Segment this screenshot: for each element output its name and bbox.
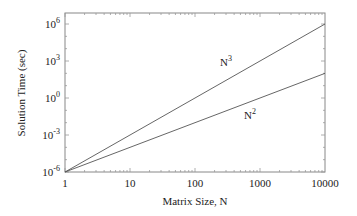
x-axis-title: Matrix Size, N	[162, 195, 227, 207]
x-tick-label: 1000	[249, 177, 272, 189]
x-tick-label: 10000	[311, 177, 339, 189]
y-tick-labels: 10-610-3100103106	[42, 16, 60, 178]
series-label-n2: N2	[244, 107, 256, 121]
y-tick-label: 100	[45, 90, 60, 104]
series-lines	[65, 24, 325, 172]
x-tick-labels: 110100100010000	[62, 177, 339, 189]
x-tick-label: 10	[125, 177, 137, 189]
series-line-n2	[65, 73, 325, 172]
chart: 110100100010000 10-610-3100103106 N3N2 M…	[0, 0, 357, 216]
y-tick-label: 103	[45, 53, 60, 67]
x-tick-label: 1	[62, 177, 68, 189]
y-tick-label: 106	[45, 16, 60, 30]
plot-frame	[65, 13, 325, 172]
series-line-n3	[65, 24, 325, 172]
x-tick-label: 100	[187, 177, 204, 189]
y-tick-label: 10-3	[42, 127, 60, 141]
tick-marks	[65, 13, 325, 172]
y-axis-title: Solution Time (sec)	[15, 49, 28, 136]
series-label-n3: N3	[220, 54, 232, 68]
y-tick-label: 10-6	[42, 164, 60, 178]
